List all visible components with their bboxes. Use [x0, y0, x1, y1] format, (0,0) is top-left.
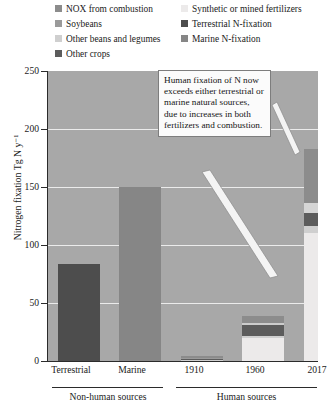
bar-segment-terrestrial-n-fixation — [58, 264, 100, 361]
legend-label-fertilizers: Synthetic or mined fertilizers — [192, 2, 302, 16]
bar-segment-2017-other-crops — [304, 213, 318, 227]
bar-segment-1960-nox — [242, 316, 284, 323]
x-axis-line — [47, 361, 318, 362]
legend-item-terrestrial: Terrestrial N-fixation — [181, 17, 302, 32]
bar-segment-2017-nox — [304, 149, 318, 204]
bar-segment-2017-soybeans — [304, 203, 318, 212]
legend-swatch-nox — [55, 5, 62, 12]
x-label-terrestrial: Terrestrial — [38, 364, 104, 375]
gridline-100 — [48, 245, 318, 246]
y-tick-100: 100 — [1, 239, 39, 250]
y-tick-150: 150 — [1, 181, 39, 192]
bar-segment-1960-fertilizers — [242, 338, 284, 361]
legend-label-marine: Marine N-fixation — [192, 32, 260, 46]
callout-annotation: Human fixation of N now exceeds either t… — [158, 70, 271, 137]
bar-2017[interactable] — [304, 149, 318, 361]
x-label-1910: 1910 — [161, 364, 227, 375]
legend-item-fertilizers: Synthetic or mined fertilizers — [181, 2, 302, 17]
legend-swatch-other-crops — [55, 50, 62, 57]
bar-segment-2017-fertilizers — [304, 233, 318, 361]
gridline-150 — [48, 187, 318, 188]
legend-item-soybeans: Soybeans — [55, 17, 161, 32]
y-tick-200: 200 — [1, 123, 39, 134]
group-rule-non-human — [52, 387, 163, 388]
group-label-non-human: Non-human sources — [47, 391, 169, 402]
x-label-1960: 1960 — [222, 364, 288, 375]
bar-segment-2017-other-beans — [304, 226, 318, 233]
legend-swatch-soybeans — [55, 20, 62, 27]
legend-item-nox: NOX from combustion — [55, 2, 161, 17]
legend-label-terrestrial: Terrestrial N-fixation — [192, 17, 272, 31]
legend-label-other-crops: Other crops — [66, 47, 110, 61]
legend-item-other-beans: Other beans and legumes — [55, 32, 161, 47]
bar-segment-1960-other-crops — [242, 325, 284, 335]
group-label-human: Human sources — [176, 391, 317, 402]
x-axis-tick-labels: Terrestrial Marine 1910 1960 2017 — [0, 364, 326, 384]
bar-segment-1910-other-beans — [181, 360, 223, 361]
chart-legend: NOX from combustion Soybeans Other beans… — [0, 0, 326, 62]
x-axis-group-labels: Non-human sources Human sources — [0, 387, 326, 404]
legend-item-marine: Marine N-fixation — [181, 32, 302, 47]
legend-swatch-marine — [181, 35, 188, 42]
bar-marine[interactable] — [119, 187, 161, 361]
legend-swatch-fertilizers — [181, 5, 188, 12]
legend-label-nox: NOX from combustion — [66, 2, 153, 16]
bar-segment-1910-other-crops — [181, 359, 223, 361]
legend-label-other-beans: Other beans and legumes — [66, 32, 161, 46]
bar-1960[interactable] — [242, 316, 284, 361]
x-label-2017: 2017 — [284, 364, 331, 375]
legend-swatch-other-beans — [55, 35, 62, 42]
bar-1910[interactable] — [181, 356, 223, 361]
bar-segment-1960-other-beans — [242, 336, 284, 338]
legend-label-soybeans: Soybeans — [66, 17, 102, 31]
legend-column-right: Synthetic or mined fertilizers Terrestri… — [181, 2, 302, 47]
bar-segment-1910-nox — [181, 356, 223, 358]
bar-terrestrial[interactable] — [58, 264, 100, 361]
legend-swatch-terrestrial — [181, 20, 188, 27]
legend-column-left: NOX from combustion Soybeans Other beans… — [55, 2, 161, 62]
y-tick-250: 250 — [1, 65, 39, 76]
y-axis-tick-labels: 250 200 150 100 50 0 — [0, 62, 39, 362]
bar-segment-1960-soybeans — [242, 323, 284, 325]
bar-segment-1910-soybeans — [181, 358, 223, 359]
x-label-marine: Marine — [99, 364, 165, 375]
bar-segment-marine-n-fixation — [119, 187, 161, 361]
legend-item-other-crops: Other crops — [55, 47, 161, 62]
group-rule-human — [176, 387, 317, 388]
y-tick-50: 50 — [1, 297, 39, 308]
